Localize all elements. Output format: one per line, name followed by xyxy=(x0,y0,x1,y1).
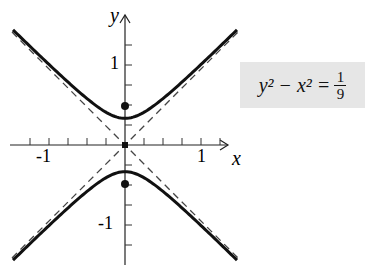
y-tick-label-1: 1 xyxy=(110,53,119,73)
equation-fraction: 1 9 xyxy=(334,69,346,102)
fraction-denominator: 9 xyxy=(337,86,345,102)
x-tick-label-1: 1 xyxy=(197,146,206,166)
hyperbola-chart: y x -1 1 1 -1 y² − x² = 1 9 xyxy=(0,0,365,265)
focus-point-lower xyxy=(121,180,129,188)
center-point xyxy=(122,142,128,148)
x-axis-label: x xyxy=(231,147,241,169)
y-tick-label-neg1: -1 xyxy=(98,213,113,233)
equation-box: y² − x² = 1 9 xyxy=(240,62,365,108)
fraction-numerator: 1 xyxy=(337,69,345,85)
focus-point-upper xyxy=(121,102,129,110)
plot-area: y x -1 1 1 -1 xyxy=(0,0,365,265)
equation-lhs: y² − x² = xyxy=(259,74,331,97)
x-tick-label-neg1: -1 xyxy=(36,146,51,166)
y-axis-label: y xyxy=(108,4,119,27)
